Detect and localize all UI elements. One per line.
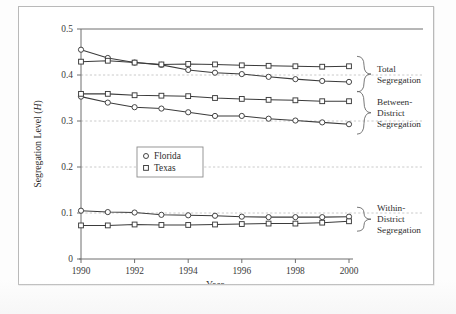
square-marker [320,99,325,104]
y-axis-title: Segregation Level (H) [32,100,44,188]
x-tick-label-1992: 1992 [125,266,144,276]
circle-marker [186,213,191,218]
square-marker [186,223,191,228]
square-marker [159,223,164,228]
circle-marker [320,78,325,83]
circle-marker [239,71,244,76]
circle-marker [320,120,325,125]
annotation-within-district-segregation-line2: District [377,214,405,224]
page-scan-gradient [0,280,456,314]
x-tick-label-1996: 1996 [232,266,251,276]
square-marker [266,63,271,68]
segregation-line-chart: 00.10.20.30.40.5199019921994199619982000… [19,7,433,284]
square-marker [79,223,84,228]
circle-marker [293,118,298,123]
circle-marker [78,47,83,52]
figure-page: 00.10.20.30.40.5199019921994199619982000… [0,0,456,314]
square-marker [105,91,110,96]
square-marker [239,222,244,227]
square-marker [159,62,164,67]
circle-marker [159,106,164,111]
circle-marker [212,213,217,218]
square-marker [293,221,298,226]
square-marker [347,219,352,224]
annotation-total-segregation-line1: Total [377,64,396,74]
circle-marker [266,74,271,79]
square-marker [293,64,298,69]
circle-marker [132,105,137,110]
square-marker [132,222,137,227]
circle-marker [293,77,298,82]
y-tick-label-0: 0 [68,254,73,264]
circle-marker [266,116,271,121]
circle-marker [239,214,244,219]
figure-frame: 00.10.20.30.40.5199019921994199619982000… [18,6,434,285]
group-brace [357,91,371,134]
annotation-between-district-segregation-line1: Between- [377,97,412,107]
square-marker [320,64,325,69]
circle-marker [212,113,217,118]
square-marker [266,221,271,226]
group-brace [357,56,371,91]
legend-square-marker [144,166,149,171]
circle-marker [346,122,351,127]
legend-circle-marker [144,154,149,159]
square-marker [79,59,84,64]
square-marker [320,220,325,225]
x-tick-label-1990: 1990 [72,266,91,276]
y-tick-label-0.3: 0.3 [61,116,73,126]
square-marker [266,97,271,102]
y-tick-label-0.1: 0.1 [61,208,73,218]
circle-marker [266,215,271,220]
circle-marker [78,208,83,213]
plot-area: 00.10.20.30.40.5199019921994199619982000… [19,7,433,284]
square-marker [186,94,191,99]
x-tick-label-1994: 1994 [179,266,198,276]
legend-label-florida: Florida [154,151,181,161]
annotation-total-segregation-line2: Segregation [377,75,421,85]
y-tick-label-0.2: 0.2 [61,162,73,172]
square-marker [159,93,164,98]
square-marker [186,62,191,67]
square-marker [213,222,218,227]
circle-marker [239,113,244,118]
circle-marker [320,215,325,220]
circle-marker [346,79,351,84]
square-marker [132,60,137,65]
square-marker [239,97,244,102]
circle-marker [186,110,191,115]
annotation-within-district-segregation-line1: Within- [377,203,405,213]
square-marker [79,91,84,96]
square-marker [347,99,352,104]
legend-label-texas: Texas [154,163,176,173]
annotation-within-district-segregation-line3: Segregation [377,225,421,235]
circle-marker [186,67,191,72]
square-marker [347,64,352,69]
square-marker [105,58,110,63]
circle-marker [132,210,137,215]
y-tick-label-0.5: 0.5 [61,24,73,34]
x-tick-label-2000: 2000 [340,266,359,276]
group-brace [357,207,371,231]
circle-marker [105,100,110,105]
square-marker [105,223,110,228]
x-tick-label-1998: 1998 [286,266,305,276]
annotation-between-district-segregation-line2: District [377,108,405,118]
circle-marker [212,70,217,75]
circle-marker [293,215,298,220]
square-marker [293,98,298,103]
square-marker [132,93,137,98]
circle-marker [105,209,110,214]
square-marker [213,62,218,67]
circle-marker [159,212,164,217]
y-tick-label-0.4: 0.4 [61,70,73,80]
x-axis-title: Year [206,279,225,284]
square-marker [239,63,244,68]
square-marker [213,96,218,101]
annotation-between-district-segregation-line3: Segregation [377,119,421,129]
